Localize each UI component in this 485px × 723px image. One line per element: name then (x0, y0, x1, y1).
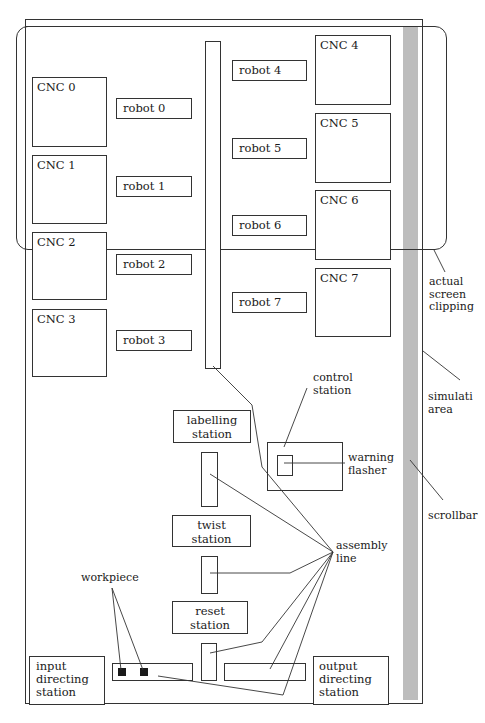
cnc-3-label: CNC 3 (37, 312, 76, 326)
workpiece-1[interactable] (118, 668, 126, 676)
cnc-4[interactable]: CNC 4 (315, 35, 391, 105)
labelling-station[interactable]: labelling station (173, 410, 251, 443)
annotation-assembly-line: assembly line (336, 540, 388, 565)
conveyor-segment-3 (201, 643, 217, 681)
cnc-0[interactable]: CNC 0 (32, 77, 107, 147)
annotation-workpiece: workpiece (81, 572, 139, 585)
robot-7[interactable]: robot 7 (232, 292, 307, 313)
input-directing-station[interactable]: input directing station (29, 656, 105, 705)
cnc-6[interactable]: CNC 6 (315, 190, 391, 260)
cnc-2[interactable]: CNC 2 (32, 232, 107, 300)
twist-station-label: twist station (173, 518, 250, 546)
robot-2-label: robot 2 (123, 257, 165, 271)
cnc-6-label: CNC 6 (320, 193, 359, 207)
robot-3[interactable]: robot 3 (116, 330, 192, 351)
robot-1[interactable]: robot 1 (116, 176, 192, 197)
robot-0[interactable]: robot 0 (116, 98, 192, 119)
twist-station[interactable]: twist station (172, 515, 251, 547)
cnc-4-label: CNC 4 (320, 38, 359, 52)
robot-5-label: robot 5 (239, 141, 281, 155)
robot-1-label: robot 1 (123, 179, 165, 193)
conveyor-segment-1 (201, 452, 218, 507)
cnc-7[interactable]: CNC 7 (315, 268, 391, 337)
conveyor-segment-2 (201, 556, 218, 594)
cnc-7-label: CNC 7 (320, 271, 359, 285)
workpiece-2[interactable] (140, 668, 148, 676)
robot-7-label: robot 7 (239, 295, 281, 309)
cnc-5-label: CNC 5 (320, 116, 359, 130)
robot-6-label: robot 6 (239, 218, 281, 232)
robot-4[interactable]: robot 4 (232, 60, 307, 81)
robot-2[interactable]: robot 2 (116, 254, 192, 275)
robot-3-label: robot 3 (123, 333, 165, 347)
cnc-5[interactable]: CNC 5 (315, 113, 391, 183)
annotation-actual-screen-clipping: actual screen clipping (429, 276, 474, 314)
annotation-scrollbar: scrollbar (428, 510, 478, 523)
output-conveyor (224, 663, 306, 681)
cnc-1-label: CNC 1 (37, 158, 76, 172)
annotation-simulation-area: simulati area (428, 391, 473, 416)
robot-6[interactable]: robot 6 (232, 215, 307, 236)
main-conveyor (205, 41, 221, 369)
reset-station[interactable]: reset station (172, 601, 248, 634)
cnc-3[interactable]: CNC 3 (32, 309, 107, 377)
output-directing-station-label: output directing station (319, 660, 372, 699)
robot-5[interactable]: robot 5 (232, 138, 307, 159)
reset-station-label: reset station (173, 604, 247, 632)
labelling-station-label: labelling station (174, 413, 250, 441)
cnc-2-label: CNC 2 (37, 235, 76, 249)
input-directing-station-label: input directing station (36, 660, 89, 699)
cnc-0-label: CNC 0 (37, 80, 76, 94)
output-directing-station[interactable]: output directing station (313, 656, 389, 705)
annotation-control-station: control station (313, 372, 353, 397)
cnc-1[interactable]: CNC 1 (32, 155, 107, 224)
robot-0-label: robot 0 (123, 101, 165, 115)
warning-flasher[interactable] (277, 455, 293, 476)
robot-4-label: robot 4 (239, 63, 281, 77)
annotation-warning-flasher: warning flasher (348, 452, 394, 477)
